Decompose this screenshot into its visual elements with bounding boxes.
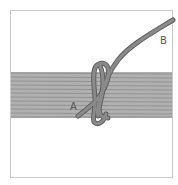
knot-diagram — [0, 0, 178, 185]
label-b: B — [160, 36, 167, 46]
label-a: A — [70, 102, 77, 112]
